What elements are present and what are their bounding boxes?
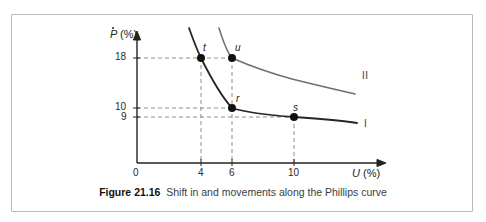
y-tick-label-9: 9 [121, 111, 127, 122]
x-tick-label-4: 4 [198, 167, 204, 178]
figure-caption-text: Shift in and movements along the Phillip… [166, 186, 387, 198]
p-dot-accent-icon [112, 27, 114, 29]
point-label-u: u [235, 42, 241, 53]
x-axis-unit: (%) [363, 167, 380, 179]
point-label-s: s [293, 102, 298, 113]
figure-container: 18 10 9 0 4 6 10 P (%) U (%) t u r s II … [0, 0, 486, 222]
y-axis-title-symbol: P [110, 28, 117, 40]
figure-caption: Figure 21.16 Shift in and movements alon… [0, 186, 486, 198]
x-axis-title: U (%) [352, 167, 380, 179]
y-axis-title: P (%) [110, 28, 137, 40]
curve-label-two: II [362, 70, 369, 81]
point-label-t: t [203, 42, 206, 53]
x-axis-title-symbol: U [352, 167, 360, 179]
curve-label-one: I [364, 118, 367, 129]
x-tick-label-6: 6 [229, 167, 235, 178]
figure-frame [11, 14, 473, 212]
y-tick-label-18: 18 [115, 51, 126, 62]
point-label-r: r [236, 93, 239, 104]
y-axis-unit: (%) [120, 28, 137, 40]
figure-caption-number: Figure 21.16 [99, 186, 160, 198]
x-tick-label-0: 0 [133, 167, 139, 178]
x-tick-label-10: 10 [288, 167, 299, 178]
